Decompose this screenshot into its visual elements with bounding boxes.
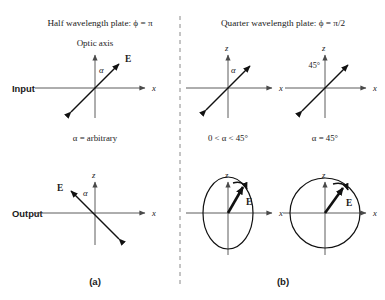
- z-axis-label: z: [321, 43, 326, 53]
- row-label-input: Input: [12, 83, 35, 94]
- row-label-output: Output: [12, 208, 43, 219]
- x-axis-label: x: [278, 83, 283, 93]
- condition-label: α = 45°: [312, 133, 339, 143]
- optic-axis-label: Optic axis: [77, 38, 114, 48]
- x-axis-label: x: [278, 208, 283, 218]
- z-axis-label: z: [91, 170, 96, 180]
- alpha-angle-label: α: [99, 65, 104, 75]
- condition-label: 0 < α < 45°: [208, 133, 249, 143]
- e-field-label: E: [246, 197, 252, 207]
- wave-plate-figure: Half wavelength plate: ϕ = π Quarter wav…: [0, 0, 385, 300]
- e-field-label: E: [125, 54, 131, 64]
- figure-canvas: Half wavelength plate: ϕ = π Quarter wav…: [0, 0, 385, 300]
- angle-45-label: 45°: [309, 61, 320, 70]
- x-axis-label: x: [372, 208, 377, 218]
- half-plate-title: Half wavelength plate: ϕ = π: [47, 18, 153, 28]
- e-field-label: E: [346, 198, 352, 208]
- x-axis-label: x: [151, 208, 156, 218]
- e-field-label: E: [57, 183, 63, 193]
- alpha-angle-label: α: [83, 188, 88, 198]
- x-axis-label: x: [372, 83, 377, 93]
- figure-background: [0, 0, 385, 300]
- quarter-plate-title: Quarter wavelength plate: ϕ = π/2: [221, 18, 346, 28]
- x-axis-label: x: [151, 83, 156, 93]
- condition-label: α = arbitrary: [73, 133, 118, 143]
- panel-caption-b: (b): [277, 276, 289, 287]
- z-axis-label: z: [224, 170, 229, 180]
- panel-caption-a: (a): [89, 276, 101, 287]
- z-axis-label: z: [224, 43, 229, 53]
- alpha-angle-label: α: [231, 65, 236, 75]
